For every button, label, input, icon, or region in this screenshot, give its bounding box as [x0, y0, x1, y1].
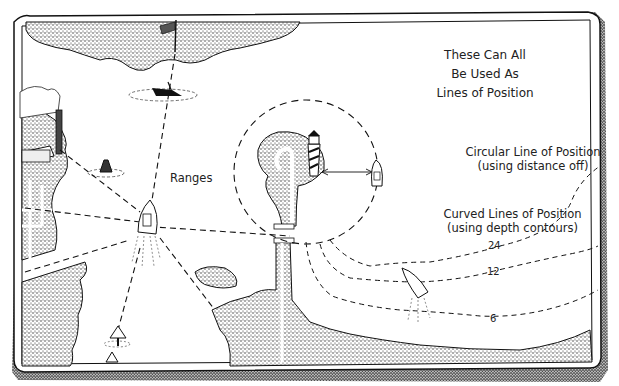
- curved-lop-subtitle: (using depth contours): [425, 221, 600, 235]
- depth-label-12: 12: [487, 266, 500, 277]
- diagram-title: These Can All Be Used As Lines of Positi…: [420, 46, 550, 103]
- depth-label-24: 24: [488, 240, 501, 251]
- ranges-label: Ranges: [170, 171, 212, 185]
- title-line-2: Be Used As: [420, 65, 550, 84]
- curved-lop-label: Curved Lines of Position (using depth co…: [425, 207, 600, 235]
- circular-lop-title: Circular Line of Position: [458, 145, 608, 159]
- circular-lop-subtitle: (using distance off): [458, 159, 608, 173]
- title-line-1: These Can All: [420, 46, 550, 65]
- depth-label-6: 6: [490, 313, 496, 324]
- circular-lop-label: Circular Line of Position (using distanc…: [458, 145, 608, 173]
- curved-lop-title: Curved Lines of Position: [425, 207, 600, 221]
- lighthouse-icon: [308, 130, 320, 176]
- title-line-3: Lines of Position: [420, 84, 550, 103]
